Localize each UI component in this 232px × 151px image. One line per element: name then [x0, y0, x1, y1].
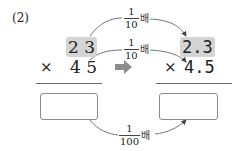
- left-multiplicand-highlight: 2 3: [66, 37, 97, 57]
- relation-top-suffix: 배: [140, 10, 149, 25]
- left-answer-box[interactable]: [40, 93, 98, 120]
- left-rule: [36, 83, 102, 84]
- fraction-middle: 1 10: [124, 38, 139, 61]
- fraction-bottom: 1 100: [119, 124, 140, 147]
- right-operator: ×: [164, 58, 177, 76]
- right-multiplier: 4.5: [184, 58, 215, 76]
- relation-middle-suffix: 배: [140, 41, 149, 56]
- curve-top-right: [150, 19, 186, 36]
- relation-middle: 1 10 배: [124, 38, 149, 61]
- relation-top: 1 10 배: [124, 7, 149, 30]
- right-arrow-icon: [115, 60, 132, 74]
- fraction-middle-denominator: 10: [124, 51, 139, 61]
- left-operator: ×: [40, 58, 53, 76]
- curve-top: [90, 18, 122, 36]
- curve-bottom-right: [155, 120, 186, 134]
- fraction-top-numerator: 1: [127, 7, 135, 17]
- problem-label: (2): [12, 11, 29, 25]
- relation-bottom-suffix: 배: [141, 127, 150, 142]
- fraction-top-denominator: 10: [124, 20, 139, 30]
- left-multiplicand: 2 3: [66, 38, 97, 56]
- right-multiplicand-highlight: 2.3: [180, 37, 215, 57]
- curve-bottom: [90, 120, 118, 135]
- right-multiplicand: 2.3: [180, 38, 215, 56]
- right-rule: [156, 83, 232, 84]
- fraction-bottom-denominator: 100: [119, 137, 140, 147]
- relation-bottom: 1 100 배: [119, 124, 150, 147]
- left-multiplier: 4 5: [70, 58, 97, 76]
- fraction-middle-numerator: 1: [127, 38, 135, 48]
- fraction-top: 1 10: [124, 7, 139, 30]
- fraction-bottom-numerator: 1: [125, 124, 133, 134]
- right-answer-box[interactable]: [159, 93, 218, 120]
